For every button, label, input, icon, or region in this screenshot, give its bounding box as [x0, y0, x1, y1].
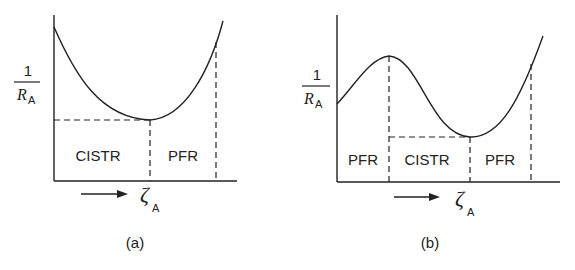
region-label-cistr: CISTR: [405, 151, 450, 168]
diagram-canvas: 1 R A CISTR PFR ζ A (a) 1 R A PFR CISTR …: [0, 0, 575, 270]
panel-caption-b: (b): [421, 234, 439, 251]
arrow-head-icon: [117, 190, 128, 198]
y-label-denominator: R: [16, 86, 27, 103]
y-label-subscript: A: [28, 94, 36, 106]
y-label-numerator: 1: [24, 62, 32, 79]
region-label-pfr-right: PFR: [485, 151, 515, 168]
panel-caption-a: (a): [126, 234, 144, 251]
y-label-subscript: A: [315, 98, 323, 110]
arrow-head-icon: [429, 193, 440, 201]
x-label-subscript: A: [467, 206, 475, 218]
panel-b: 1 R A PFR CISTR PFR ζ A (b): [302, 15, 560, 251]
panel-a: 1 R A CISTR PFR ζ A (a): [14, 15, 237, 251]
region-label-cistr: CISTR: [76, 147, 121, 164]
region-label-pfr-left: PFR: [348, 151, 378, 168]
inverse-rate-curve: [54, 21, 223, 120]
x-label-zeta: ζ: [140, 182, 151, 207]
x-label-subscript: A: [152, 202, 160, 214]
y-label-denominator: R: [303, 90, 314, 107]
y-label-numerator: 1: [313, 66, 321, 83]
region-label-pfr: PFR: [168, 147, 198, 164]
inverse-rate-curve: [337, 36, 543, 137]
x-label-zeta: ζ: [455, 186, 466, 211]
